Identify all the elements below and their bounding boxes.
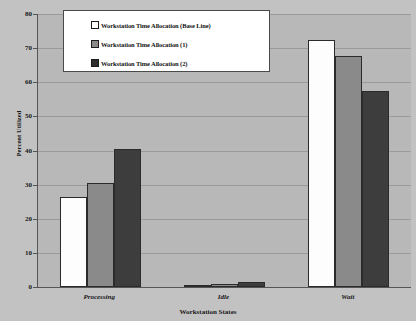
legend-label: Workstation Time Allocation (1) <box>101 41 187 48</box>
x-tick-label-wait: Wait <box>288 293 408 301</box>
y-axis-title: Percent Utilized <box>15 84 22 184</box>
legend-item-0[interactable]: Workstation Time Allocation (Base Line) <box>91 19 211 31</box>
legend-swatch-icon <box>91 21 99 29</box>
y-tick-label: 80 <box>2 10 32 18</box>
y-tick-label: 0 <box>2 283 32 291</box>
y-tick-mark <box>33 116 37 117</box>
legend-swatch-icon <box>91 59 99 67</box>
y-tick-label: 10 <box>2 249 32 257</box>
legend-label: Workstation Time Allocation (2) <box>101 60 187 67</box>
legend-swatch-icon <box>91 40 99 48</box>
bar-chart: 01020304050607080 Percent Utilized Proce… <box>0 0 416 321</box>
chart-legend: Workstation Time Allocation (Base Line)W… <box>63 10 270 72</box>
y-tick-label: 20 <box>2 215 32 223</box>
x-tick-label-processing: Processing <box>39 293 159 301</box>
y-tick-mark <box>33 253 37 254</box>
y-tick-mark <box>33 48 37 49</box>
y-tick-label: 70 <box>2 44 32 52</box>
y-tick-mark <box>33 82 37 83</box>
legend-item-2[interactable]: Workstation Time Allocation (2) <box>91 57 187 69</box>
y-tick-mark <box>33 287 37 288</box>
y-tick-mark <box>33 185 37 186</box>
legend-label: Workstation Time Allocation (Base Line) <box>101 22 211 29</box>
y-tick-mark <box>33 219 37 220</box>
x-axis-title: Workstation States <box>0 308 416 316</box>
y-tick-mark <box>33 14 37 15</box>
x-tick-label-idle: Idle <box>164 293 284 301</box>
y-tick-mark <box>33 151 37 152</box>
legend-item-1[interactable]: Workstation Time Allocation (1) <box>91 38 187 50</box>
